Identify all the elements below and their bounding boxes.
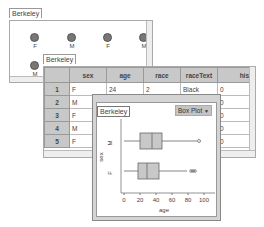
svg-text:20: 20 xyxy=(137,197,144,203)
svg-text:age: age xyxy=(159,207,170,213)
column-header-racetext[interactable]: raceText xyxy=(181,68,218,83)
icon-label: F xyxy=(102,43,114,49)
svg-text:sex: sex xyxy=(98,152,104,161)
icons-window-tab[interactable]: Berkeley xyxy=(9,8,42,18)
svg-text:80: 80 xyxy=(185,197,192,203)
icon-label: F xyxy=(29,43,41,49)
table-window-tab[interactable]: Berkeley xyxy=(43,54,76,64)
column-header-age[interactable]: age xyxy=(107,68,144,83)
person-icon[interactable] xyxy=(67,33,76,42)
vertical-scrollbar[interactable] xyxy=(249,67,255,153)
svg-text:60: 60 xyxy=(169,197,176,203)
person-icon[interactable] xyxy=(30,33,39,42)
row-number[interactable]: 4 xyxy=(45,122,70,135)
row-number[interactable]: 2 xyxy=(45,96,70,109)
svg-text:100: 100 xyxy=(199,197,210,203)
row-number[interactable]: 1 xyxy=(45,83,70,96)
box-plot: M F sex 0 20 40 60 80 100 xyxy=(97,113,218,217)
column-header-sex[interactable]: sex xyxy=(70,68,107,83)
column-header-race[interactable]: race xyxy=(144,68,181,83)
svg-text:M: M xyxy=(107,141,113,146)
svg-text:0: 0 xyxy=(122,197,126,203)
icon-label: M xyxy=(66,43,78,49)
chart-window: Berkeley Box Plot ▼ M F sex xyxy=(92,94,221,221)
chart-panel: Berkeley Box Plot ▼ M F sex xyxy=(96,102,217,217)
person-icon[interactable] xyxy=(30,61,39,70)
person-icon[interactable] xyxy=(103,33,112,42)
svg-text:40: 40 xyxy=(153,197,160,203)
row-number-header xyxy=(45,68,70,83)
row-number[interactable]: 5 xyxy=(45,135,70,148)
svg-text:F: F xyxy=(107,171,113,175)
table-header-row: sex age race raceText hisp xyxy=(45,68,255,83)
row-number[interactable]: 3 xyxy=(45,109,70,122)
